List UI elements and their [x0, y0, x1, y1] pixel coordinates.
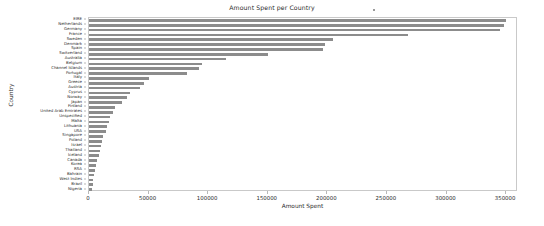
y-tick-mark	[84, 77, 86, 78]
y-tick-mark	[84, 169, 86, 170]
y-tick-mark	[84, 62, 86, 63]
x-tick-label: 250000	[376, 195, 397, 201]
bar	[89, 145, 101, 148]
bar	[89, 101, 122, 104]
bar	[89, 29, 500, 32]
y-tick-mark	[84, 82, 86, 83]
bar	[89, 130, 106, 133]
bars-layer	[89, 18, 516, 190]
x-axis-label: Amount Spent	[88, 203, 517, 209]
x-tick-mark	[88, 191, 89, 194]
bar	[89, 72, 187, 75]
bar	[89, 116, 110, 119]
y-tick-mark	[84, 183, 86, 184]
y-tick-label: Nigeria	[68, 187, 82, 191]
y-tick-mark	[84, 130, 86, 131]
y-tick-mark	[84, 116, 86, 117]
x-tick-label: 300000	[435, 195, 456, 201]
x-tick-mark	[505, 191, 506, 194]
y-tick-mark	[84, 154, 86, 155]
bar	[89, 179, 93, 182]
bar	[89, 38, 333, 41]
bar	[89, 169, 95, 172]
chart-title: Amount Spent per Country	[0, 4, 544, 11]
bar	[89, 140, 102, 143]
y-tick-mark	[84, 43, 86, 44]
y-tick-mark	[84, 178, 86, 179]
y-tick-mark	[84, 135, 86, 136]
bar	[89, 92, 130, 95]
x-tick-mark	[207, 191, 208, 194]
y-tick-mark	[84, 29, 86, 30]
x-tick-mark	[267, 191, 268, 194]
y-tick-mark	[84, 164, 86, 165]
bar	[89, 183, 93, 186]
bar	[89, 164, 96, 167]
x-tick-label: 150000	[256, 195, 277, 201]
bar	[89, 53, 268, 56]
y-tick-mark	[84, 174, 86, 175]
x-tick-label: 50000	[139, 195, 156, 201]
y-tick-mark	[84, 145, 86, 146]
y-tick-mark	[84, 19, 86, 20]
bar	[89, 135, 103, 138]
bar	[89, 174, 94, 177]
bar	[89, 150, 100, 153]
plot-area	[88, 17, 517, 191]
y-tick-mark	[84, 72, 86, 73]
bar	[89, 159, 97, 162]
x-tick-mark	[386, 191, 387, 194]
y-tick-mark	[84, 24, 86, 25]
bar	[89, 106, 115, 109]
y-tick-mark	[84, 125, 86, 126]
y-tick-mark	[84, 38, 86, 39]
x-tick-mark	[148, 191, 149, 194]
y-tick-mark	[84, 87, 86, 88]
bar	[89, 87, 140, 90]
bar	[89, 125, 107, 128]
y-tick-mark	[84, 58, 86, 59]
y-tick-mark	[84, 111, 86, 112]
y-tick-mark	[84, 149, 86, 150]
x-tick-label: 350000	[495, 195, 516, 201]
y-tick-mark	[84, 33, 86, 34]
bar	[89, 111, 113, 114]
x-tick-mark	[326, 191, 327, 194]
bar	[89, 121, 109, 124]
bar	[89, 63, 202, 66]
y-tick-mark	[84, 48, 86, 49]
y-tick-mark	[84, 188, 86, 189]
y-tick-mark	[84, 91, 86, 92]
y-tick-mark	[84, 67, 86, 68]
x-tick-mark	[446, 191, 447, 194]
y-tick-mark	[84, 106, 86, 107]
y-tick-mark	[84, 140, 86, 141]
y-tick-mark	[84, 159, 86, 160]
y-tick-mark	[84, 96, 86, 97]
bar	[89, 82, 144, 85]
bar	[89, 58, 226, 61]
y-axis-tick-labels: EIRENetherlandsGermanyFranceSwedenDenmar…	[0, 17, 86, 191]
bar	[89, 77, 149, 80]
bar	[89, 19, 506, 22]
bar	[89, 67, 199, 70]
bar	[89, 43, 325, 46]
bar	[89, 96, 127, 99]
x-tick-label: 200000	[316, 195, 337, 201]
y-tick-mark	[84, 53, 86, 54]
bar	[89, 48, 323, 51]
bar	[89, 154, 99, 157]
x-tick-label: 100000	[197, 195, 218, 201]
y-tick-mark	[84, 120, 86, 121]
bar	[89, 24, 504, 27]
bar	[89, 34, 408, 37]
y-tick-mark	[84, 101, 86, 102]
chart-figure: Amount Spent per Country Country EIRENet…	[0, 0, 544, 226]
x-tick-label: 0	[86, 195, 89, 201]
stray-mark	[373, 9, 375, 11]
